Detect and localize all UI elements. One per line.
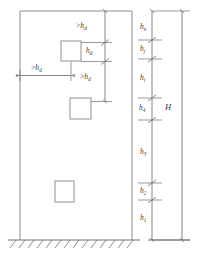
dimension-label-left-edge-distance: >hd xyxy=(31,64,42,72)
storey-height-label-h-2: h2 xyxy=(140,187,147,195)
overall-height-label: H xyxy=(165,103,171,112)
left-edge-dimension-line xyxy=(20,62,71,82)
opening-upper xyxy=(61,41,81,61)
storey-height-label-h-n: hn xyxy=(140,23,147,31)
wall-outline xyxy=(20,11,132,240)
storey-height-label-h-1: h1 xyxy=(140,214,147,222)
storey-height-label-h-j: hj xyxy=(140,45,145,53)
storey-height-label-h-3: h3 xyxy=(140,148,147,156)
dimension-label-middle-vertical-gap: >hd xyxy=(80,73,91,81)
dimension-label-opening-height: hd xyxy=(86,47,93,55)
overall-height-dimension-line xyxy=(152,11,190,240)
opening-middle xyxy=(70,98,91,119)
storey-height-label-h-i: hi xyxy=(140,74,145,82)
opening-lower xyxy=(55,181,74,202)
figure-drawing xyxy=(0,0,197,260)
dimension-label-top-vertical-gap: >hd xyxy=(76,22,87,30)
ground-hatch xyxy=(10,240,133,248)
ground-line xyxy=(8,240,190,248)
storey-height-label-h-4: h4 xyxy=(139,104,146,112)
wall-elevation-figure: >hd hd >hd >hd hn hj hi h4 h3 h2 h1 H xyxy=(0,0,197,260)
